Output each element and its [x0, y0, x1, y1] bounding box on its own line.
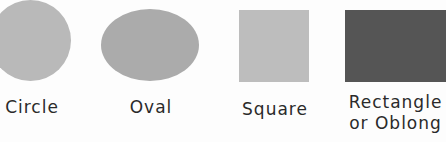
oval-shape [101, 9, 199, 81]
rectangle-shape [345, 10, 446, 82]
rectangle-label-line2: or Oblong [345, 113, 446, 134]
rectangle-label: Rectangle or Oblong [345, 92, 446, 134]
square-shape [239, 10, 309, 82]
circle-label: Circle [0, 97, 64, 118]
oval-label: Oval [118, 97, 184, 118]
square-label: Square [236, 99, 314, 120]
circle-shape [0, 0, 71, 81]
rectangle-label-line1: Rectangle [345, 92, 446, 113]
